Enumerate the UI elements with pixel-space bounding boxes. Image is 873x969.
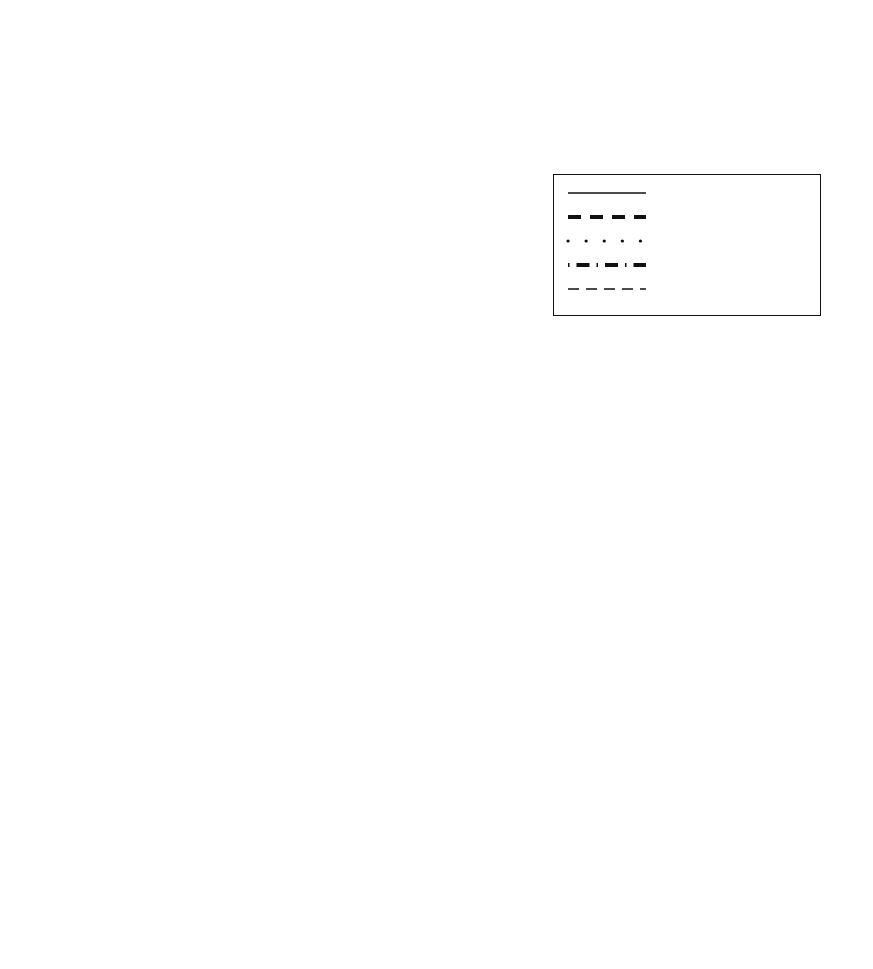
legend-keys [554,175,820,315]
figure-page [0,0,873,969]
legend-box [553,174,821,316]
panel-hazard-2-to-3 [390,494,873,964]
chart-hazard-2-to-3 [390,494,873,964]
panel-hazard-1-to-2 [0,14,500,484]
chart-hazard-1-to-2 [0,14,500,484]
running-head [0,0,873,5]
